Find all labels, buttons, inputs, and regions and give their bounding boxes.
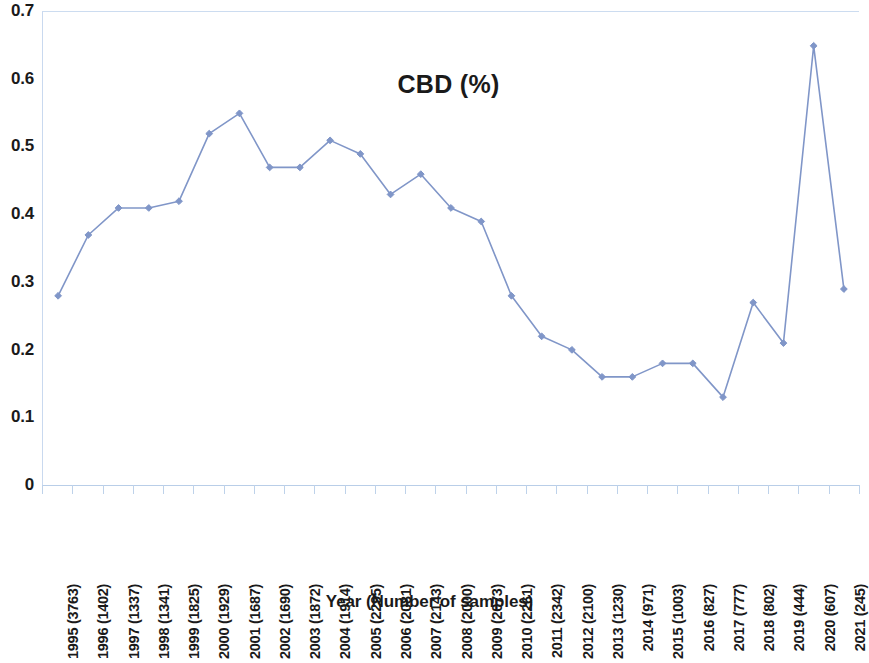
y-tick-label: 0.4 [11,204,34,224]
x-tick-mark [587,485,588,494]
x-tick-mark [677,485,678,494]
x-tick-mark [496,485,497,494]
x-tick-mark [829,485,830,494]
y-tick-label: 0.1 [11,407,34,427]
series-line [58,46,844,397]
x-tick-mark [708,485,709,494]
x-tick-mark [556,485,557,494]
x-axis-ticks [42,485,859,494]
x-tick-mark [859,485,860,494]
data-point-marker [176,198,183,205]
x-tick-mark [163,485,164,494]
x-tick-mark [768,485,769,494]
data-point-marker [810,42,817,49]
x-axis-title: Year (Number of samples) [0,592,859,612]
x-tick-mark [42,485,43,494]
x-tick-mark [435,485,436,494]
y-axis: 0.70.60.50.40.30.20.10 [0,0,38,495]
y-tick-label: 0.5 [11,136,34,156]
x-tick-mark [405,485,406,494]
x-tick-mark [72,485,73,494]
x-tick-mark [284,485,285,494]
data-point-marker [629,373,636,380]
x-tick-mark [254,485,255,494]
data-point-marker [478,218,485,225]
x-tick-mark [375,485,376,494]
data-series-cbd [43,12,859,485]
x-tick-mark [133,485,134,494]
y-tick-label: 0.7 [11,1,34,21]
y-tick-label: 0.3 [11,272,34,292]
plot-area [42,11,859,485]
x-tick-mark [466,485,467,494]
x-tick-mark [738,485,739,494]
y-tick-label: 0 [25,475,34,495]
x-axis-category-labels: 1995 (3763)1996 (1402)1997 (1337)1998 (1… [42,496,859,584]
x-tick-mark [345,485,346,494]
data-point-marker [55,292,62,299]
x-tick-mark [193,485,194,494]
data-point-marker [145,205,152,212]
y-tick-label: 0.2 [11,340,34,360]
y-tick-label: 0.6 [11,69,34,89]
x-tick-mark [526,485,527,494]
x-tick-mark [617,485,618,494]
x-tick-mark [314,485,315,494]
data-point-marker [659,360,666,367]
x-tick-mark [103,485,104,494]
data-point-marker [266,164,273,171]
x-tick-mark [647,485,648,494]
x-tick-mark [798,485,799,494]
x-tick-mark [224,485,225,494]
data-point-marker [840,286,847,293]
